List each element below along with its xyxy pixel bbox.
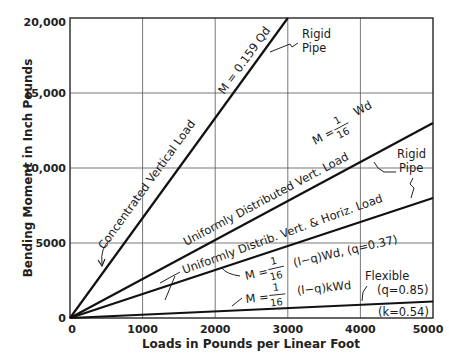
- arrow-icon: [374, 162, 396, 172]
- x-tick: 1000: [127, 323, 158, 336]
- svg-text:16: 16: [335, 125, 351, 141]
- svg-text:M =: M =: [310, 124, 337, 147]
- flexible-k-label: (k=0.54): [378, 305, 429, 319]
- rigid-pipe-label-1b: Pipe: [302, 41, 326, 55]
- svg-text:M =: M =: [245, 290, 270, 306]
- svg-text:(l−q)Wd, (q=0.37): (l−q)Wd, (q=0.37): [292, 232, 399, 270]
- flexible-label: Flexible: [365, 269, 409, 283]
- x-tick: 0: [68, 323, 76, 336]
- arrow-icon: [160, 272, 180, 283]
- y-tick: 20,000: [24, 16, 67, 29]
- y-tick: 5000: [35, 237, 66, 250]
- svg-text:16: 16: [269, 269, 284, 283]
- uniform-vert-formula: M = 1 16 Wd: [307, 98, 379, 152]
- rigid-pipe-label-2b: Pipe: [399, 161, 423, 175]
- svg-text:16: 16: [270, 296, 284, 308]
- svg-text:Wd: Wd: [351, 98, 374, 119]
- svg-text:1: 1: [269, 255, 278, 267]
- arrow-icon: [362, 286, 367, 301]
- arrow-icon: [222, 268, 240, 276]
- arrow-icon: [232, 298, 242, 306]
- concentrated-load-label: Concentrated Vertical Load: [95, 117, 198, 252]
- svg-text:M =: M =: [244, 264, 270, 283]
- flexible-q-label: (q=0.85): [377, 283, 429, 297]
- x-tick: 2000: [200, 323, 231, 336]
- x-axis-label: Loads in Pounds per Linear Foot: [142, 337, 360, 351]
- x-tick-labels: 0 1000 2000 3000 4000 5000: [68, 323, 443, 336]
- x-tick: 5000: [413, 323, 444, 336]
- y-tick: 0: [58, 312, 66, 325]
- svg-text:1: 1: [332, 114, 343, 127]
- svg-text:1: 1: [272, 282, 279, 294]
- arrow-icon: [270, 43, 298, 52]
- arrow-icon: [410, 178, 414, 198]
- concentrated-formula: M = 0.159 Qd: [215, 24, 273, 97]
- svg-text:(l−q)kWd: (l−q)kWd: [296, 278, 352, 298]
- bending-moment-chart: 20,000 15,000 10,000 5000 0 0 1000 2000 …: [0, 0, 449, 363]
- y-axis-label: Bending Moment in Inch Pounds: [21, 59, 35, 278]
- x-tick: 3000: [272, 323, 303, 336]
- x-tick: 4000: [345, 323, 376, 336]
- rigid-pipe-label-2: Rigid: [397, 147, 426, 161]
- rigid-pipe-label-1: Rigid: [302, 27, 331, 41]
